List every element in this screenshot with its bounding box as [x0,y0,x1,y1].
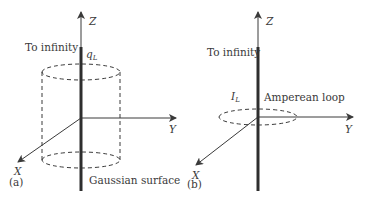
to-infinity-label-b: To infinity [207,47,260,58]
x-axis-b [196,117,258,165]
panel-b-caption: (b) [187,179,202,190]
to-infinity-label-a: To infinity [25,42,78,53]
gaussian-surface-label: Gaussian surface [89,175,180,186]
charge-symbol: q [86,48,93,60]
y-axis-label-b: Y [345,124,352,135]
z-axis-label-a: Z [89,16,96,27]
z-axis-label-b: Z [266,16,273,27]
amperean-loop-label: Amperean loop [264,92,345,103]
charge-subscript: L [93,54,98,62]
x-axis-label-a: X [14,166,21,177]
current-subscript: L [235,96,240,104]
panel-a [18,12,176,191]
current-label: IL [231,91,240,104]
y-axis-label-a: Y [169,124,176,135]
figure: Z To infinity qL Y X (a) Gaussian surfac… [0,0,367,201]
charge-label: qL [86,49,97,62]
panel-a-caption: (a) [9,177,23,188]
